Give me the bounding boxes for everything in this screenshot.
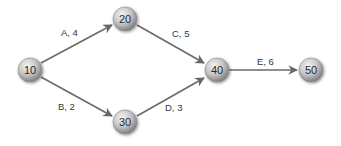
edge-label-b: B, 2: [58, 101, 75, 112]
edge-b-arrow: [41, 77, 112, 116]
node-30: 30: [113, 110, 137, 134]
node-label-20: 20: [119, 13, 131, 25]
edge-label-a: A, 4: [61, 27, 78, 38]
node-20: 20: [113, 7, 137, 31]
node-40: 40: [205, 58, 229, 82]
edge-label-e: E, 6: [257, 56, 274, 67]
edge-label-d: D, 3: [165, 102, 182, 113]
edge-c-arrow: [137, 25, 204, 63]
edge-label-c: C, 5: [172, 28, 189, 39]
node-10: 10: [18, 58, 42, 82]
node-label-40: 40: [211, 64, 223, 76]
network-diagram: A, 4 B, 2 C, 5 D, 3 E, 6 10 20 30 40 50: [0, 0, 341, 146]
node-label-30: 30: [119, 116, 131, 128]
node-label-10: 10: [24, 64, 36, 76]
node-50: 50: [299, 58, 323, 82]
node-label-50: 50: [305, 64, 317, 76]
